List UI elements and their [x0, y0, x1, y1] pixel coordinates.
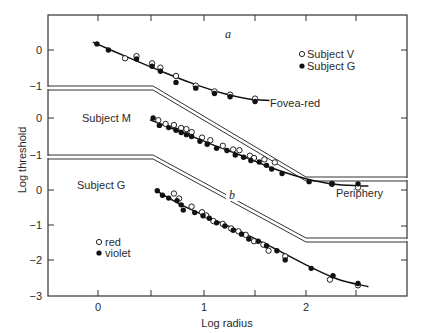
data-point	[306, 179, 311, 184]
data-point	[155, 188, 160, 193]
data-point	[279, 171, 284, 176]
data-point	[330, 273, 335, 278]
legend-top: Subject V Subject G	[299, 48, 355, 72]
data-point	[179, 130, 184, 135]
x-tick-labels: 0 1 2	[95, 301, 309, 313]
data-point	[272, 160, 277, 165]
svg-text:violet: violet	[105, 247, 131, 259]
data-point	[157, 123, 162, 128]
data-point	[207, 216, 212, 221]
log-threshold-chart: 0 −1 0 −1 0 −1 −2 −3 0 1 2 Log radius Lo…	[0, 0, 423, 333]
x-tick-label: 1	[201, 301, 207, 313]
subject-m-label: Subject M	[82, 112, 131, 124]
panel-a	[93, 41, 270, 104]
data-point	[237, 147, 242, 152]
y-tick-label: −1	[29, 149, 42, 161]
data-point	[264, 243, 269, 248]
data-layer	[93, 41, 369, 288]
data-point	[189, 134, 194, 139]
data-point	[224, 148, 229, 153]
data-point	[192, 210, 197, 215]
data-point	[193, 85, 198, 90]
data-point	[158, 69, 163, 74]
data-point	[239, 231, 244, 236]
data-point	[134, 56, 139, 61]
panel-break-upper	[48, 86, 407, 181]
y-tick-label: 0	[36, 112, 42, 124]
data-point	[220, 143, 225, 148]
data-point	[189, 204, 194, 209]
data-point	[171, 122, 176, 127]
svg-text:b: b	[229, 188, 235, 202]
data-point	[171, 191, 176, 196]
fit-curve	[93, 42, 270, 100]
y-axis-label: Log threshold	[16, 127, 28, 194]
data-point	[197, 139, 202, 144]
data-point	[94, 41, 99, 46]
data-point	[173, 80, 178, 85]
data-point	[231, 147, 236, 152]
data-point	[214, 220, 219, 225]
data-point	[309, 266, 314, 271]
data-point	[160, 193, 165, 198]
data-point	[122, 56, 127, 61]
data-point	[106, 47, 111, 52]
data-point	[246, 236, 251, 241]
data-point	[150, 115, 155, 120]
data-point	[173, 73, 178, 78]
data-point	[149, 63, 154, 68]
data-point	[212, 91, 217, 96]
y-tick-labels: 0 −1 0 −1 0 −1 −2 −3	[29, 44, 42, 302]
data-point	[241, 155, 246, 160]
data-point	[274, 248, 279, 253]
data-point	[248, 158, 253, 163]
legend-bottom: red violet	[96, 236, 130, 259]
y-tick-label: −2	[29, 254, 42, 266]
svg-text:Subject G: Subject G	[307, 60, 355, 72]
y-tick-label: 0	[36, 44, 42, 56]
svg-text:Subject V: Subject V	[307, 48, 355, 60]
data-point	[266, 248, 271, 253]
data-point	[184, 126, 189, 131]
data-point	[355, 281, 360, 286]
fovea-red-label: Fovea-red	[270, 97, 320, 109]
data-point	[200, 213, 205, 218]
data-point	[269, 166, 274, 171]
panel-letter-a: a	[225, 27, 231, 41]
data-point	[255, 238, 260, 243]
data-point	[222, 223, 227, 228]
data-point	[252, 99, 257, 104]
data-point	[264, 163, 269, 168]
y-tick-label: −1	[29, 219, 42, 231]
subject-g-label: Subject G	[77, 179, 125, 191]
data-point	[166, 195, 171, 200]
data-point	[181, 207, 186, 212]
data-point	[214, 146, 219, 151]
data-point	[184, 132, 189, 137]
data-point	[227, 94, 232, 99]
y-tick-label: −3	[29, 290, 42, 302]
data-point	[173, 128, 178, 133]
data-point	[329, 181, 334, 186]
data-point	[179, 202, 184, 207]
data-point	[231, 228, 236, 233]
data-point	[257, 159, 262, 164]
data-point	[283, 257, 288, 262]
data-point	[233, 152, 238, 157]
data-point	[262, 157, 267, 162]
x-axis-label: Log radius	[201, 317, 253, 329]
x-tick-label: 0	[95, 301, 101, 313]
data-point	[156, 118, 161, 123]
x-tick-label: 2	[303, 301, 309, 313]
data-point	[166, 125, 171, 130]
data-point	[174, 198, 179, 203]
y-tick-label: 0	[36, 184, 42, 196]
data-point	[205, 142, 210, 147]
data-point	[355, 181, 360, 186]
y-tick-label: −1	[29, 80, 42, 92]
